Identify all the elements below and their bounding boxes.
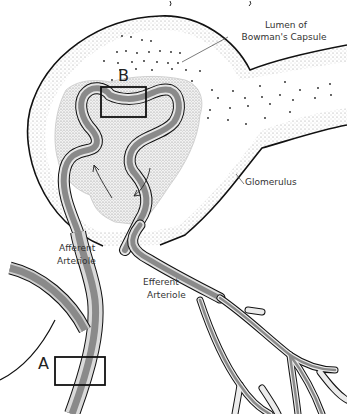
efferent-arteriole (133, 225, 347, 414)
label-lumen-line2: Bowman's Capsule (232, 31, 336, 43)
label-efferent-line1: Efferent (143, 276, 179, 288)
label-glomerulus: Glomerulus (245, 176, 297, 188)
cropped-title-fragment (170, 1, 251, 6)
label-box-b: B (118, 68, 129, 84)
label-lumen-line1: Lumen of (236, 19, 336, 31)
renal-corpuscle-diagram (0, 0, 347, 414)
label-box-a: A (38, 356, 49, 372)
label-efferent-line2: Arteriole (147, 289, 186, 301)
label-afferent-line2: Arteriole (57, 255, 96, 267)
label-afferent-line1: Afferent (59, 242, 95, 254)
